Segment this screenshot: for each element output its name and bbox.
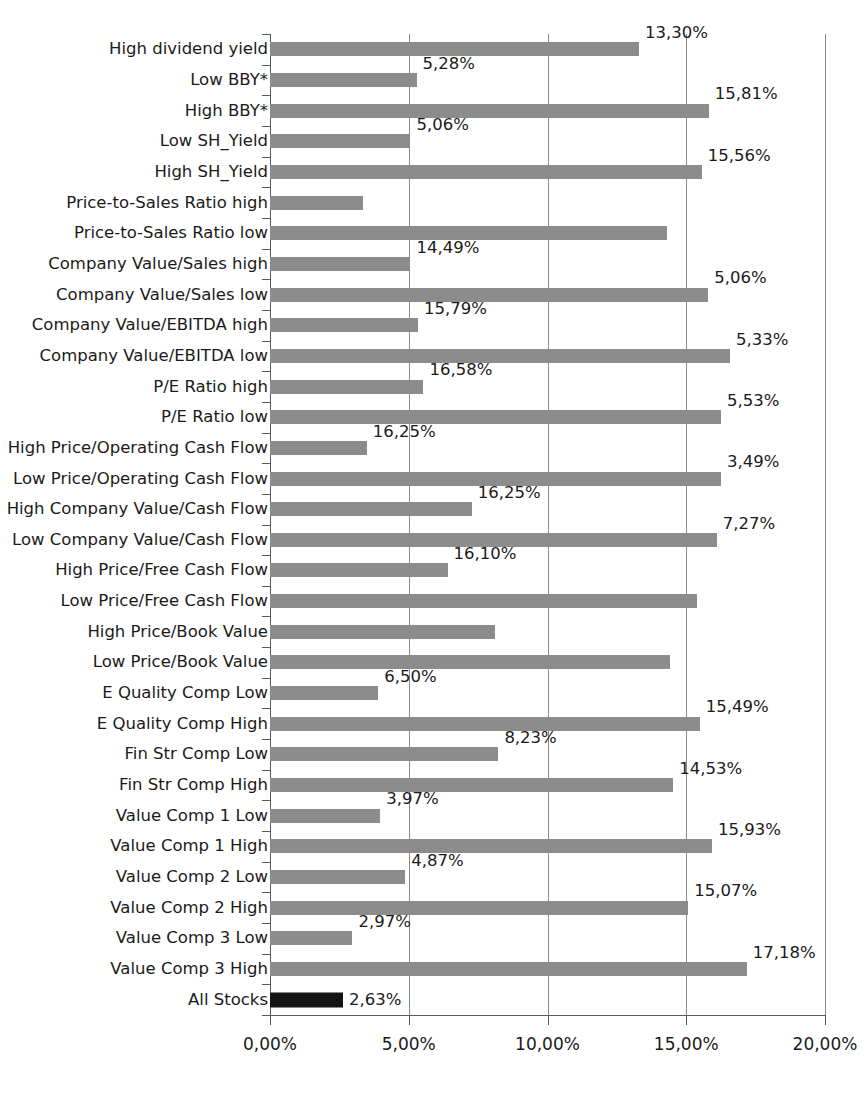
chart-row: Value Comp 3 High17,18%	[0, 954, 865, 985]
bar	[270, 931, 352, 945]
category-label: Low Price/Operating Cash Flow	[13, 470, 268, 487]
chart-row: Value Comp 2 High15,07%	[0, 892, 865, 923]
value-label: 7,27%	[723, 516, 775, 533]
value-label: 16,25%	[478, 485, 541, 502]
bar	[270, 686, 378, 700]
category-label: High BBY*	[185, 102, 268, 119]
category-label: Fin Str Comp High	[119, 777, 268, 794]
chart-row: Low Price/Operating Cash Flow3,49%	[0, 463, 865, 494]
category-label: P/E Ratio low	[161, 409, 268, 426]
value-tick-label: 5,00%	[382, 1034, 436, 1054]
bar	[270, 839, 712, 853]
value-label: 8,23%	[504, 730, 556, 747]
value-label: 2,63%	[349, 991, 401, 1008]
value-tick	[686, 1015, 687, 1025]
bar	[270, 594, 697, 608]
chart-row: High Price/Free Cash Flow16,10%	[0, 555, 865, 586]
chart-row: All Stocks2,63%	[0, 984, 865, 1015]
chart-row: Value Comp 3 Low2,97%	[0, 923, 865, 954]
category-label: Value Comp 1 High	[110, 838, 268, 855]
value-label: 15,79%	[424, 301, 487, 318]
chart-row: E Quality Comp High15,49%	[0, 708, 865, 739]
chart-row: High Price/Book Value	[0, 616, 865, 647]
value-tick-label: 15,00%	[654, 1034, 719, 1054]
category-label: Low BBY*	[190, 72, 268, 89]
value-label: 6,50%	[384, 669, 436, 686]
bar	[270, 410, 721, 424]
value-label: 5,06%	[714, 270, 766, 287]
value-label: 2,97%	[358, 914, 410, 931]
value-label: 16,25%	[373, 424, 436, 441]
value-label: 14,49%	[416, 240, 479, 257]
bar	[270, 502, 472, 516]
value-label: 15,49%	[706, 699, 769, 716]
value-label: 15,56%	[708, 148, 771, 165]
bar	[270, 104, 709, 118]
category-label: High Price/Operating Cash Flow	[8, 440, 268, 457]
value-label: 16,10%	[454, 546, 517, 563]
category-label: Value Comp 2 Low	[116, 869, 268, 886]
value-label: 15,93%	[718, 822, 781, 839]
bar	[270, 349, 730, 363]
bar	[270, 257, 410, 271]
value-label: 3,49%	[727, 454, 779, 471]
bar	[270, 962, 747, 976]
value-tick-label: 10,00%	[515, 1034, 580, 1054]
value-label: 5,33%	[736, 332, 788, 349]
category-label: Value Comp 3 Low	[116, 930, 268, 947]
category-label: Company Value/EBITDA low	[40, 348, 268, 365]
category-label: Fin Str Comp Low	[125, 746, 268, 763]
value-tick	[548, 1015, 549, 1025]
value-label: 17,18%	[753, 945, 816, 962]
bar-chart: High dividend yield13,30%Low BBY*5,28%Hi…	[0, 0, 865, 1100]
category-label: Company Value/EBITDA high	[32, 317, 268, 334]
value-label: 16,58%	[429, 362, 492, 379]
bar	[270, 165, 702, 179]
category-label: E Quality Comp High	[97, 716, 268, 733]
value-tick	[825, 1015, 826, 1025]
value-label: 5,53%	[727, 393, 779, 410]
value-label: 14,53%	[679, 761, 742, 778]
chart-row: High SH_Yield15,56%	[0, 157, 865, 188]
value-label: 4,87%	[411, 853, 463, 870]
value-tick-label: 0,00%	[243, 1034, 297, 1054]
bar	[270, 318, 418, 332]
chart-row: Low Price/Free Cash Flow	[0, 586, 865, 617]
category-label: All Stocks	[188, 991, 268, 1008]
category-label: Value Comp 2 High	[110, 899, 268, 916]
value-label: 5,28%	[423, 56, 475, 73]
category-label: High dividend yield	[109, 41, 268, 58]
chart-row: Price-to-Sales Ratio high	[0, 187, 865, 218]
category-label: Low Company Value/Cash Flow	[12, 532, 268, 549]
bar	[270, 441, 367, 455]
value-label: 13,30%	[645, 25, 708, 42]
bar	[270, 992, 343, 1007]
category-label: High SH_Yield	[154, 164, 268, 181]
bar	[270, 809, 380, 823]
category-label: Company Value/Sales low	[56, 286, 268, 303]
category-label: High Company Value/Cash Flow	[7, 501, 268, 518]
category-label: Price-to-Sales Ratio high	[66, 194, 268, 211]
value-tick	[270, 1015, 271, 1025]
bar	[270, 563, 448, 577]
category-label: P/E Ratio high	[153, 378, 268, 395]
bar	[270, 778, 673, 792]
category-label: High Price/Free Cash Flow	[55, 562, 268, 579]
category-label: Low SH_Yield	[160, 133, 268, 150]
bar	[270, 73, 417, 87]
value-tick-label: 20,00%	[793, 1034, 858, 1054]
value-label: 5,06%	[416, 117, 468, 134]
category-label: Low Price/Free Cash Flow	[61, 593, 268, 610]
value-label: 15,81%	[715, 86, 778, 103]
bar	[270, 901, 688, 915]
chart-row: Low Company Value/Cash Flow7,27%	[0, 525, 865, 556]
value-tick	[409, 1015, 410, 1025]
bar	[270, 717, 700, 731]
value-label: 3,97%	[386, 791, 438, 808]
bar	[270, 655, 670, 669]
value-label: 15,07%	[694, 883, 757, 900]
category-label: Price-to-Sales Ratio low	[74, 225, 268, 242]
category-label: E Quality Comp Low	[102, 685, 268, 702]
category-label: High Price/Book Value	[87, 624, 268, 641]
bar	[270, 870, 405, 884]
